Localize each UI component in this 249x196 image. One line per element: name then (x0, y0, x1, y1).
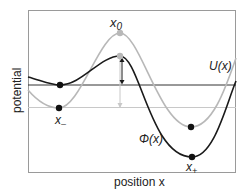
u-xplus-point (188, 124, 194, 130)
phi-curve-label: Φ(x) (139, 132, 163, 146)
u-xminus-point (56, 105, 62, 111)
potential-diagram: x0 x– x+ U(x) Φ(x) position x potential (0, 0, 249, 196)
phi-xminus-point (57, 82, 63, 88)
x0-label: x0 (109, 15, 123, 32)
phi-peak-point (117, 53, 123, 59)
x-axis-label: position x (114, 175, 165, 189)
x-minus-label: x– (54, 113, 67, 129)
x-plus-label: x+ (185, 160, 197, 176)
y-axis-label: potential (10, 68, 24, 113)
plot-frame (29, 11, 236, 173)
u-curve-label: U(x) (209, 59, 232, 73)
